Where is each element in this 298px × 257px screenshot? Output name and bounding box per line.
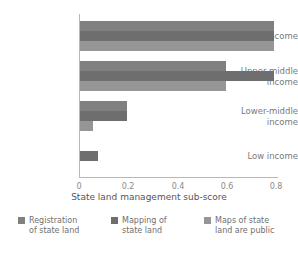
legend-label-line2: state land (122, 226, 162, 235)
bar-high-income-registration-of-state-land (80, 21, 274, 31)
legend-label-line2: of state land (29, 226, 79, 235)
legend-item-mapping-of-state-land: Mapping of state land (111, 216, 204, 236)
bar-upper-middle-income-registration-of-state-land (80, 61, 226, 71)
bar-upper-middle-income-maps-of-state-land-are-public (80, 81, 226, 91)
legend-label-line2: land are public (215, 226, 274, 235)
x-axis-tick-0: 0 (59, 182, 99, 191)
legend-item-maps-of-state-land-are-public: Maps of state land are public (204, 216, 297, 236)
legend-label-maps-of-state-land-are-public: Maps of state land are public (215, 216, 274, 236)
x-axis-tick-4: 0.8 (256, 182, 296, 191)
chart-legend: Registration of state land Mapping of st… (0, 216, 298, 236)
x-axis-title: State land management sub-score (0, 192, 298, 202)
legend-label-mapping-of-state-land: Mapping of state land (122, 216, 167, 236)
bar-lower-middle-income-maps-of-state-land-are-public (80, 121, 93, 131)
bar-lower-middle-income-mapping-of-state-land (80, 111, 127, 121)
legend-swatch-maps-of-state-land-are-public (204, 217, 211, 224)
bar-lower-middle-income-registration-of-state-land (80, 101, 127, 111)
bar-upper-middle-income-mapping-of-state-land (80, 71, 274, 81)
bar-high-income-maps-of-state-land-are-public (80, 41, 274, 51)
plot-area (79, 14, 278, 178)
x-axis-tick-1: 0.2 (108, 182, 148, 191)
legend-swatch-registration-of-state-land (18, 217, 25, 224)
bar-chart: High income Upper-middle income Lower-mi… (0, 0, 298, 257)
legend-item-registration-of-state-land: Registration of state land (18, 216, 111, 236)
x-axis-tick-3: 0.6 (207, 182, 247, 191)
legend-swatch-mapping-of-state-land (111, 217, 118, 224)
bar-low-income-mapping-of-state-land (80, 151, 98, 161)
bar-high-income-mapping-of-state-land (80, 31, 274, 41)
legend-label-line1: Maps of state (215, 216, 269, 225)
x-axis-tick-2: 0.4 (158, 182, 198, 191)
legend-label-line1: Registration (29, 216, 77, 225)
legend-label-registration-of-state-land: Registration of state land (29, 216, 79, 236)
legend-label-line1: Mapping of (122, 216, 167, 225)
x-axis-line (79, 177, 278, 178)
